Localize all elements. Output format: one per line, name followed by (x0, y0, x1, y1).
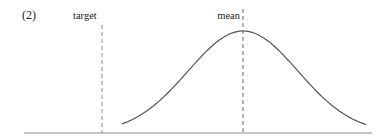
panel-label: (2) (22, 8, 36, 22)
target-label: target (73, 10, 97, 21)
mean-label: mean (217, 10, 240, 21)
distribution-diagram: (2) target mean (0, 0, 391, 140)
bell-curve (122, 31, 366, 125)
